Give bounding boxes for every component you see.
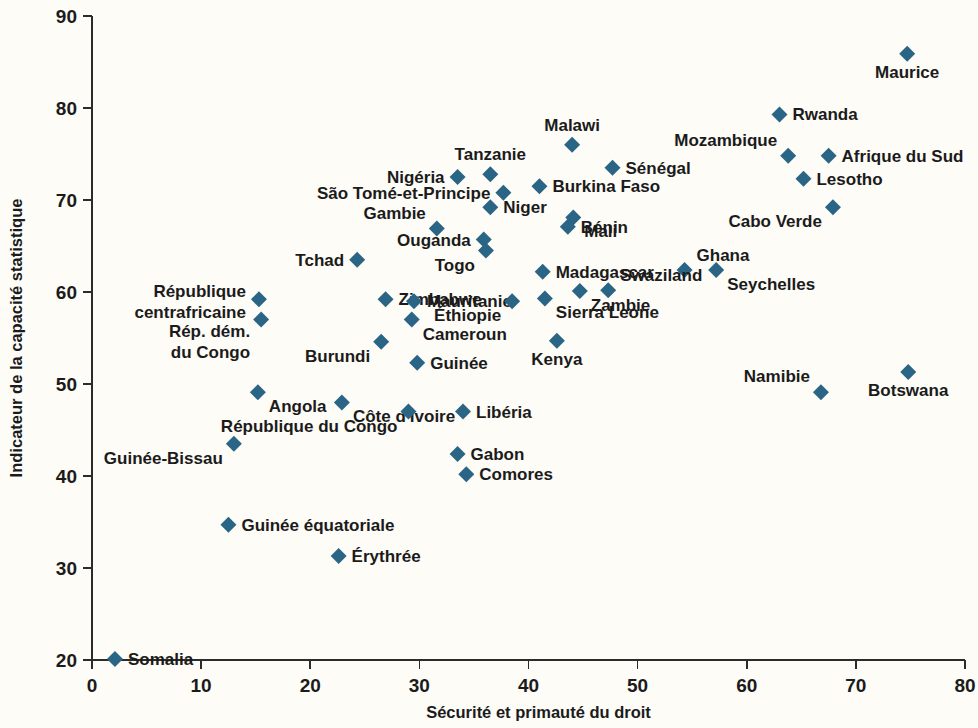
data-point[interactable]: Guinée équatoriale: [220, 516, 394, 535]
point-label: Républiquecentrafricaine: [134, 282, 246, 322]
point-label: Swaziland: [620, 266, 702, 285]
point-label: Tchad: [295, 251, 344, 270]
data-point[interactable]: Niger: [482, 198, 547, 217]
diamond-marker: [795, 171, 811, 187]
data-point[interactable]: Mozambique: [674, 131, 796, 164]
y-tick-label: 20: [56, 650, 77, 671]
point-label: République du Congo: [221, 417, 398, 436]
x-tick-label: 40: [518, 675, 539, 696]
diamond-marker: [253, 312, 269, 328]
diamond-marker: [373, 334, 389, 350]
diamond-marker: [900, 364, 916, 380]
data-point[interactable]: Burkina Faso: [531, 177, 660, 196]
y-tick-label: 70: [56, 190, 77, 211]
data-point[interactable]: Gabon: [450, 445, 525, 464]
diamond-marker: [226, 436, 242, 452]
x-tick-label: 10: [191, 675, 212, 696]
x-tick-label: 50: [627, 675, 648, 696]
point-label: Sénégal: [626, 159, 691, 178]
y-tick-label: 50: [56, 374, 77, 395]
data-point[interactable]: Guinée: [409, 354, 488, 373]
data-point[interactable]: Burundi: [305, 334, 389, 366]
data-point[interactable]: Comores: [458, 465, 553, 484]
diamond-marker: [250, 384, 266, 400]
data-point[interactable]: Ouganda: [397, 231, 492, 250]
data-point[interactable]: Kenya: [531, 333, 583, 369]
point-label: Guinée équatoriale: [241, 516, 394, 535]
diamond-marker: [535, 264, 551, 280]
point-label: Lesotho: [816, 170, 882, 189]
x-tick-label: 80: [954, 675, 975, 696]
x-tick-label: 60: [736, 675, 757, 696]
x-axis-title: Sécurité et primauté du droit: [426, 703, 651, 721]
point-label: Comores: [479, 465, 553, 484]
point-label: Maurice: [875, 63, 939, 82]
point-label: Malawi: [544, 116, 600, 135]
point-label: Guinée-Bissau: [104, 449, 223, 468]
data-point[interactable]: Namibie: [744, 367, 829, 400]
data-point[interactable]: Maurice: [875, 46, 939, 82]
scatter-chart: 203040506070809001020304050607080Sécurit…: [0, 0, 978, 728]
data-point[interactable]: Sénégal: [605, 159, 691, 178]
diamond-marker: [349, 252, 365, 268]
point-label: Namibie: [744, 367, 810, 386]
diamond-marker: [404, 312, 420, 328]
x-tick-label: 0: [87, 675, 98, 696]
data-point[interactable]: Tchad: [295, 251, 365, 270]
data-point[interactable]: São Tomé-et-Principe: [317, 184, 512, 203]
data-point[interactable]: Guinée-Bissau: [104, 436, 242, 468]
point-label: Ghana: [697, 246, 750, 265]
data-point[interactable]: Seychelles: [708, 262, 815, 294]
diamond-marker: [455, 404, 471, 420]
diamond-marker: [572, 283, 588, 299]
y-tick-label: 80: [56, 98, 77, 119]
data-point[interactable]: Lesotho: [795, 170, 882, 189]
diamond-marker: [220, 517, 236, 533]
y-tick-label: 90: [56, 6, 77, 27]
diamond-marker: [813, 384, 829, 400]
point-label: Cabo Verde: [728, 212, 822, 231]
data-point[interactable]: Érythrée: [331, 547, 421, 566]
diamond-marker: [107, 651, 123, 667]
data-point[interactable]: Afrique du Sud: [821, 147, 964, 166]
data-point[interactable]: Rwanda: [771, 105, 858, 124]
point-label: Gabon: [471, 445, 525, 464]
point-label: Afrique du Sud: [842, 147, 964, 166]
diamond-marker: [331, 548, 347, 564]
point-label: Seychelles: [727, 275, 815, 294]
diamond-marker: [564, 137, 580, 153]
x-tick-label: 20: [300, 675, 321, 696]
y-tick-label: 60: [56, 282, 77, 303]
point-label: Gambie: [363, 204, 425, 223]
y-tick-label: 40: [56, 466, 77, 487]
diamond-marker: [450, 169, 466, 185]
diamond-marker: [378, 291, 394, 307]
point-label: Burundi: [305, 347, 370, 366]
data-point[interactable]: Angola: [250, 384, 327, 416]
data-point[interactable]: Somalia: [107, 650, 194, 669]
point-label: Érythrée: [352, 547, 421, 566]
point-label: Botswana: [868, 381, 949, 400]
diamond-marker: [899, 46, 915, 62]
point-label: Guinée: [430, 354, 488, 373]
point-label: Ouganda: [397, 231, 471, 250]
diamond-marker: [409, 355, 425, 371]
plot-area: 203040506070809001020304050607080Sécurit…: [0, 0, 978, 728]
y-tick-label: 30: [56, 558, 77, 579]
point-label: Bénin: [581, 218, 628, 237]
data-point[interactable]: Cabo Verde: [728, 199, 841, 231]
data-point[interactable]: Malawi: [544, 116, 600, 153]
diamond-marker: [780, 148, 796, 164]
y-axis-title: Indicateur de la capacité statistique: [7, 199, 25, 478]
data-point[interactable]: Tanzanie: [455, 145, 526, 182]
x-tick-label: 30: [409, 675, 430, 696]
diamond-marker: [482, 166, 498, 182]
point-label: Angola: [269, 397, 327, 416]
data-point[interactable]: Libéria: [455, 403, 532, 422]
diamond-marker: [825, 199, 841, 215]
data-point[interactable]: Républiquecentrafricaine: [134, 282, 267, 322]
data-point[interactable]: Botswana: [868, 364, 949, 400]
point-label: Somalia: [128, 650, 194, 669]
diamond-marker: [605, 160, 621, 176]
point-label: Mozambique: [674, 131, 777, 150]
